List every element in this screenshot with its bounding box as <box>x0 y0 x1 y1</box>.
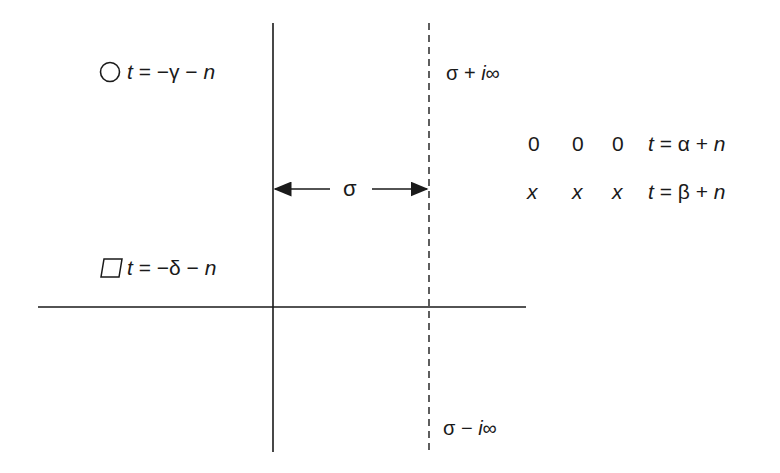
infinity-text: ∞ <box>486 62 500 84</box>
equation-text: = α + <box>654 132 714 155</box>
pole-label-gamma: t = −γ − n <box>127 61 215 82</box>
square-icon <box>101 259 122 277</box>
variable-n: n <box>714 180 726 203</box>
pole-marker-zero: 0 <box>612 133 648 154</box>
pole-row-beta: xxxt = β + n <box>527 181 725 202</box>
infinity-text: ∞ <box>483 417 497 439</box>
contour-diagram <box>0 0 780 473</box>
pole-marker-x: x <box>572 181 612 202</box>
equation-text: = β + <box>654 180 714 203</box>
sigma-text: σ + <box>446 62 481 84</box>
pole-marker-x: x <box>527 181 572 202</box>
contour-bottom-label: σ − i∞ <box>443 418 497 438</box>
pole-marker-zero: 0 <box>528 133 572 154</box>
variable-n: n <box>205 256 217 279</box>
pole-marker-zero: 0 <box>572 133 612 154</box>
sigma-width-label: σ <box>343 178 357 200</box>
variable-n: n <box>203 60 215 83</box>
sigma-text: σ − <box>443 417 478 439</box>
variable-n: n <box>714 132 726 155</box>
equation-text: = −γ − <box>133 60 204 83</box>
pole-marker-x: x <box>612 181 648 202</box>
circle-icon <box>101 63 120 82</box>
pole-row-alpha: 000t = α + n <box>528 133 726 154</box>
equation-text: = −δ − <box>133 256 205 279</box>
pole-label-delta: t = −δ − n <box>127 257 216 278</box>
contour-top-label: σ + i∞ <box>446 63 500 83</box>
